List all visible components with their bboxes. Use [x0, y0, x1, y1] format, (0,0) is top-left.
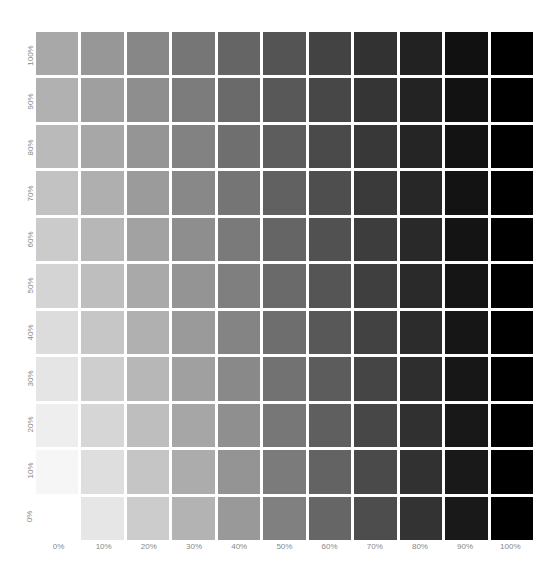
grid-cell — [218, 497, 260, 540]
grid-cell — [36, 497, 78, 540]
y-tick-label: 90% — [20, 78, 40, 124]
grid-cell — [263, 78, 305, 121]
grid-cell — [218, 450, 260, 493]
grid-cell — [172, 171, 214, 214]
y-tick-label: 70% — [20, 171, 40, 217]
grid-cell — [354, 497, 396, 540]
grid-cell — [309, 497, 351, 540]
grid-cell — [491, 450, 533, 493]
grid-cell — [400, 450, 442, 493]
grid-cell — [127, 218, 169, 261]
grid-cell — [445, 404, 487, 447]
grid-cell — [36, 32, 78, 75]
grid-cell — [263, 171, 305, 214]
grid-cell — [354, 125, 396, 168]
grid-cell — [354, 450, 396, 493]
grid-cell — [127, 32, 169, 75]
y-tick-label: 0% — [20, 494, 40, 540]
grid-cell — [263, 311, 305, 354]
grid-cell — [36, 78, 78, 121]
grid-cell — [36, 357, 78, 400]
grid-cell — [36, 125, 78, 168]
x-tick-label: 100% — [488, 542, 533, 551]
grid-cell — [218, 78, 260, 121]
grid-cell — [400, 497, 442, 540]
grid-cell — [81, 264, 123, 307]
grid-cell — [400, 171, 442, 214]
grid-cell — [491, 311, 533, 354]
y-tick-label: 40% — [20, 309, 40, 355]
grid-cell — [263, 218, 305, 261]
grid-cell — [218, 311, 260, 354]
y-tick-label: 50% — [20, 263, 40, 309]
y-tick-label: 20% — [20, 401, 40, 447]
grid-cell — [172, 78, 214, 121]
grid-cell — [491, 171, 533, 214]
grid-cell — [172, 357, 214, 400]
grid-cell — [172, 311, 214, 354]
grid-cell — [445, 497, 487, 540]
grid-cell — [354, 218, 396, 261]
grid-cell — [218, 171, 260, 214]
grid-cell — [81, 404, 123, 447]
grid-cell — [309, 357, 351, 400]
x-tick-label: 70% — [352, 542, 397, 551]
x-tick-label: 20% — [126, 542, 171, 551]
grid-cell — [400, 78, 442, 121]
grid-cell — [445, 32, 487, 75]
grid-cell — [127, 171, 169, 214]
grid-cell — [127, 497, 169, 540]
grid-cell — [445, 171, 487, 214]
grid-cell — [218, 218, 260, 261]
grid-cell — [309, 264, 351, 307]
grid-cell — [354, 357, 396, 400]
tint-grid — [36, 32, 533, 540]
grid-cell — [309, 32, 351, 75]
grid-cell — [36, 311, 78, 354]
grid-cell — [491, 264, 533, 307]
grid-cell — [81, 78, 123, 121]
grid-cell — [36, 218, 78, 261]
grid-cell — [36, 450, 78, 493]
grid-cell — [127, 78, 169, 121]
x-tick-label: 90% — [443, 542, 488, 551]
grid-cell — [81, 218, 123, 261]
grid-cell — [491, 218, 533, 261]
grid-cell — [445, 450, 487, 493]
grid-cell — [400, 311, 442, 354]
grid-cell — [354, 171, 396, 214]
grid-cell — [263, 404, 305, 447]
grid-cell — [218, 357, 260, 400]
grid-cell — [263, 264, 305, 307]
y-tick-label: 10% — [20, 448, 40, 494]
grid-cell — [263, 32, 305, 75]
grid-cell — [81, 32, 123, 75]
grid-cell — [309, 450, 351, 493]
grid-cell — [218, 404, 260, 447]
y-tick-label: 30% — [20, 355, 40, 401]
grid-cell — [400, 218, 442, 261]
x-tick-label: 30% — [172, 542, 217, 551]
grid-cell — [81, 171, 123, 214]
grid-cell — [81, 450, 123, 493]
grid-cell — [491, 78, 533, 121]
grid-cell — [400, 125, 442, 168]
y-tick-label: 80% — [20, 124, 40, 170]
grid-cell — [354, 404, 396, 447]
grid-cell — [218, 125, 260, 168]
grid-cell — [491, 357, 533, 400]
grid-cell — [36, 171, 78, 214]
x-tick-label: 80% — [397, 542, 442, 551]
grid-cell — [445, 311, 487, 354]
grid-cell — [400, 32, 442, 75]
grid-cell — [445, 125, 487, 168]
grid-cell — [400, 357, 442, 400]
grid-cell — [127, 450, 169, 493]
grid-cell — [127, 125, 169, 168]
grid-cell — [218, 32, 260, 75]
y-tick-label: 100% — [20, 32, 40, 78]
grid-cell — [263, 357, 305, 400]
grid-cell — [309, 311, 351, 354]
grid-cell — [36, 264, 78, 307]
grid-cell — [445, 78, 487, 121]
